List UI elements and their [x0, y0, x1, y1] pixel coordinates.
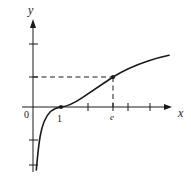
- plot-canvas: [0, 0, 191, 181]
- tick-label-e: e: [110, 113, 114, 122]
- x-axis-arrowhead: [164, 104, 172, 110]
- y-axis-arrowhead: [30, 19, 36, 28]
- logarithm-figure: y x 0 1 e: [0, 0, 191, 181]
- tick-label-1: 1: [57, 114, 62, 124]
- y-axis-label: y: [28, 4, 33, 16]
- marked-point-e: [111, 75, 115, 79]
- origin-label: 0: [24, 110, 29, 120]
- marked-point-root: [59, 105, 63, 109]
- x-axis-label: x: [178, 107, 183, 119]
